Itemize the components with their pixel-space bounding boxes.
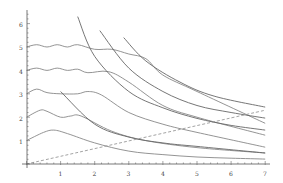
x-tick-label: 3 xyxy=(127,170,131,177)
y-tick-label: 3 xyxy=(19,91,23,98)
hyperbola-3-line xyxy=(100,31,265,119)
y-tick-label: 1 xyxy=(19,138,23,145)
x-tick-label: 6 xyxy=(229,170,233,177)
plot-area: 1 2 3 4 5 6 7 1 2 3 4 5 6 xyxy=(0,0,283,183)
ticks-group xyxy=(27,14,266,165)
hyperbola-2-line xyxy=(78,17,266,131)
diagonal-line xyxy=(27,110,266,164)
hyperbola-4-line xyxy=(124,38,266,108)
y-tick-labels: 1 2 3 4 5 6 xyxy=(19,21,23,146)
y-tick-label: 6 xyxy=(19,21,23,28)
wave-1-line xyxy=(27,130,266,159)
x-tick-label: 4 xyxy=(161,170,165,177)
curves-group xyxy=(27,17,266,164)
x-tick-label: 2 xyxy=(93,170,97,177)
y-tick-label: 2 xyxy=(19,115,23,122)
y-tick-label: 5 xyxy=(19,44,23,51)
y-tick-label: 4 xyxy=(19,68,23,75)
x-tick-labels: 1 2 3 4 5 6 7 xyxy=(59,170,268,177)
x-tick-label: 1 xyxy=(59,170,63,177)
wave-5-line xyxy=(27,45,266,124)
wave-2-line xyxy=(27,110,266,153)
x-tick-label: 7 xyxy=(263,170,267,177)
axes-group xyxy=(22,10,270,168)
x-tick-label: 5 xyxy=(195,170,199,177)
